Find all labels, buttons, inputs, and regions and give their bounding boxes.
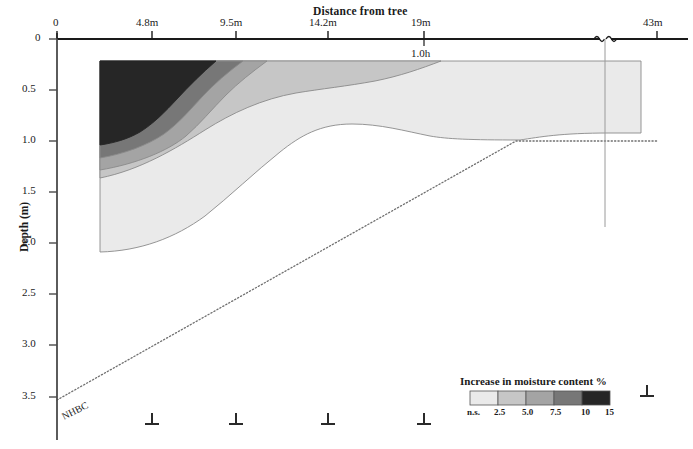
legend-tick-1: 2.5 (494, 407, 505, 417)
legend-swatches (470, 391, 610, 405)
x-tick-4: 19m (411, 16, 431, 28)
y-tick-2: 1.0 (22, 133, 36, 145)
legend-tick-2: 5.0 (522, 407, 533, 417)
x-tick-0: 0 (53, 16, 59, 28)
x-tick-5: 43m (643, 16, 663, 28)
y-tick-5: 2.5 (22, 286, 36, 298)
borehole-marker-legend (640, 385, 654, 396)
borehole-marker (417, 413, 431, 424)
legend-tick-3: 7.5 (550, 407, 561, 417)
legend-tick-4: 10 (581, 407, 590, 417)
y-tick-6: 3.0 (22, 337, 36, 349)
legend-tick-0: n.s. (467, 407, 480, 417)
x-tick-1: 4.8m (136, 16, 158, 28)
y-axis-title: Depth (m) (18, 202, 30, 252)
legend-title: Increase in moisture content % (460, 375, 607, 387)
y-tick-3: 1.5 (22, 184, 36, 196)
figure-root: Distance from tree 0 4.8m 9.5m 14.2m 19m… (0, 0, 693, 449)
borehole-marker (145, 413, 159, 424)
y-tick-1: 0.5 (22, 82, 36, 94)
y-tick-0: 0 (35, 31, 41, 43)
y-tick-7: 3.5 (22, 389, 36, 401)
x-tick-3: 14.2m (309, 16, 337, 28)
h-ratio-label: 1.0h (411, 47, 430, 59)
x-tick-2: 9.5m (220, 16, 242, 28)
legend-tick-5: 15 (605, 407, 614, 417)
borehole-marker (321, 413, 335, 424)
borehole-marker (229, 413, 243, 424)
